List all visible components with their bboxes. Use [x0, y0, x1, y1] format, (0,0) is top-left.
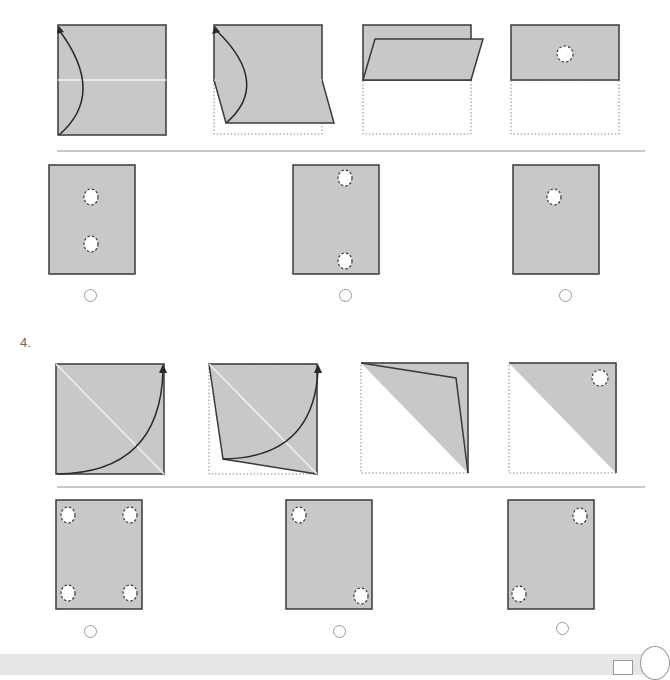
q4-divider	[57, 486, 645, 488]
punch-hole-icon	[512, 586, 526, 602]
q3-step-1	[57, 24, 171, 138]
punch-hole-icon	[292, 507, 306, 523]
punch-hole-icon	[338, 170, 352, 186]
question-number: 4.	[20, 335, 31, 350]
q3-step-3	[361, 24, 487, 138]
page-box	[613, 660, 633, 675]
punch-hole-icon	[84, 236, 98, 252]
q3-step-4	[509, 24, 623, 138]
punch-hole-icon	[592, 370, 608, 386]
q3-option-1-radio[interactable]	[84, 289, 97, 302]
punch-hole-icon	[354, 588, 368, 604]
q4-option-3-radio[interactable]	[556, 622, 569, 635]
q3-option-3-figure	[512, 164, 602, 276]
q3-option-2-radio[interactable]	[339, 289, 352, 302]
q4-option-1-radio[interactable]	[84, 625, 97, 638]
q3-divider	[57, 150, 645, 152]
footer-bar	[0, 654, 651, 675]
q3-option-3-radio[interactable]	[559, 289, 572, 302]
q4-option-3-figure	[507, 499, 597, 611]
punch-hole-icon	[61, 585, 75, 601]
punch-hole-icon	[547, 189, 561, 205]
punch-hole-icon	[557, 46, 573, 62]
q3-option-1-figure	[48, 164, 138, 276]
punch-hole-icon	[61, 507, 75, 523]
q3-step-2	[212, 24, 338, 138]
q4-option-1-figure	[55, 499, 145, 611]
q4-step-2	[208, 363, 323, 477]
q4-option-2-radio[interactable]	[333, 625, 346, 638]
q4-step-1	[55, 363, 170, 477]
punch-hole-icon	[338, 253, 352, 269]
q4-step-3	[360, 362, 475, 476]
page-badge-icon	[640, 646, 670, 680]
punch-hole-icon	[123, 585, 137, 601]
punch-hole-icon	[573, 508, 587, 524]
punch-hole-icon	[84, 189, 98, 205]
q3-option-2-figure	[292, 164, 382, 276]
q4-step-4	[508, 362, 623, 476]
q4-option-2-figure	[285, 499, 375, 611]
punch-hole-icon	[123, 507, 137, 523]
